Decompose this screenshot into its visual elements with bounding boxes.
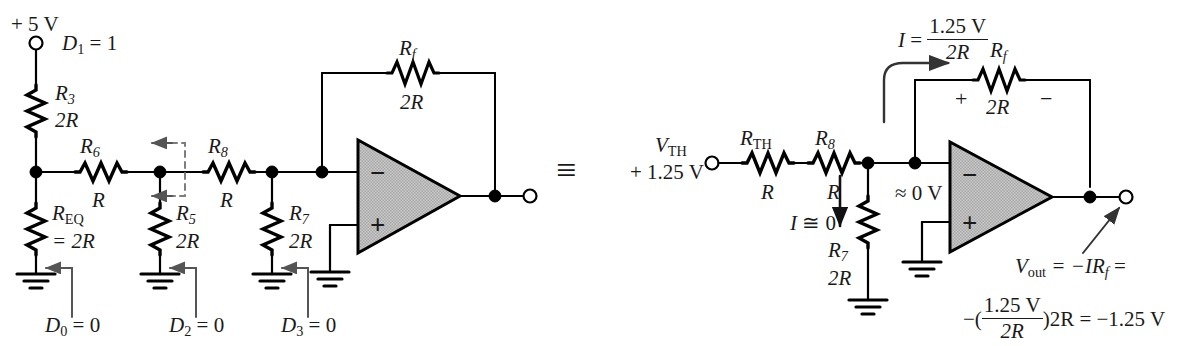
r5-name: R5	[176, 203, 196, 227]
opamp-left-minus: −	[370, 160, 385, 187]
r8-right-name: R8	[815, 128, 835, 152]
junction-output-right	[1084, 191, 1096, 203]
r6-value: R	[92, 190, 105, 211]
resistor-req	[27, 203, 45, 255]
left-circuit-group	[17, 37, 537, 318]
resistor-r7-left	[263, 203, 281, 255]
current-approx-zero-label: I ≅ 0	[790, 213, 836, 234]
vth-value: + 1.25 V	[630, 162, 704, 183]
d3-label: D3 = 0	[281, 315, 336, 339]
ground-symbol-req	[17, 274, 55, 288]
resistor-r8-right	[808, 153, 860, 173]
rth-value: R	[761, 182, 774, 203]
r3-value: 2R	[55, 110, 78, 131]
circuit-figure: + 5 V D1 = 1 R3 2R R6 R R8 R REQ = 2R R5…	[0, 0, 1193, 346]
supply-terminal-node	[30, 37, 43, 50]
resistor-rf-left	[387, 62, 439, 84]
junction-output-left	[489, 190, 501, 202]
ground-symbol-opamp-right	[903, 262, 941, 276]
r7-left-value: 2R	[289, 231, 312, 252]
vout-equation-line2: −(1.25 V2R)2R = −1.25 V	[963, 294, 1165, 342]
req-name: REQ	[52, 203, 84, 227]
d2-label: D2 = 0	[169, 315, 224, 339]
resistor-r5	[151, 203, 169, 255]
r8-left-value: R	[220, 190, 233, 211]
equivalence-symbol: ≡	[556, 152, 576, 188]
supply-label: + 5 V	[11, 14, 59, 35]
rf-left-value: 2R	[400, 92, 423, 113]
rf-polarity-plus: +	[955, 88, 967, 110]
junction-node-a	[30, 166, 42, 178]
r7-right-name: R7	[828, 240, 848, 264]
d0-label: D0 = 0	[45, 315, 100, 339]
opamp-right-minus: −	[962, 162, 977, 189]
r7-right-value: 2R	[828, 268, 851, 289]
r8-left-name: R8	[208, 136, 228, 160]
rf-right-value: 2R	[986, 97, 1009, 118]
rf-right-name: Rf	[990, 40, 1007, 64]
output-terminal-right	[1120, 191, 1133, 204]
output-terminal-left	[524, 190, 537, 203]
resistor-r8-left	[203, 163, 255, 181]
ground-symbol-r7-left	[253, 274, 291, 288]
resistor-rf-right	[973, 69, 1025, 91]
r7-left-name: R7	[289, 203, 309, 227]
ground-symbol-r5	[141, 274, 179, 288]
junction-node-c	[266, 166, 278, 178]
rf-left-name: Rf	[399, 38, 416, 62]
vth-terminal	[706, 157, 719, 170]
leader-vout	[1083, 208, 1119, 253]
virtual-ground-label: ≈ 0 V	[895, 183, 942, 204]
r8-right-value: R	[827, 182, 840, 203]
junction-node-e	[862, 157, 874, 169]
r6-name: R6	[80, 136, 100, 160]
req-value: = 2R	[52, 231, 95, 252]
d1-label: D1 = 1	[62, 33, 117, 57]
junction-node-b	[154, 166, 166, 178]
ground-symbol-opamp-left	[311, 272, 349, 286]
opamp-left-plus: +	[370, 212, 385, 239]
opamp-right-plus: +	[962, 210, 977, 237]
rth-name: RTH	[740, 128, 772, 152]
resistor-r7-right	[859, 196, 877, 248]
ground-symbol-r7-right	[849, 300, 887, 314]
vout-equation-line1: Vout = −IRf =	[1015, 256, 1126, 280]
vth-name: VTH	[655, 135, 687, 159]
resistor-r6	[75, 163, 127, 181]
current-equation: I = 1.25 V2R	[898, 15, 988, 63]
r5-value: 2R	[176, 231, 199, 252]
resistor-rth	[742, 153, 794, 173]
r3-name: R3	[55, 83, 75, 107]
resistor-r3	[27, 85, 45, 137]
rf-polarity-minus: −	[1040, 88, 1052, 110]
